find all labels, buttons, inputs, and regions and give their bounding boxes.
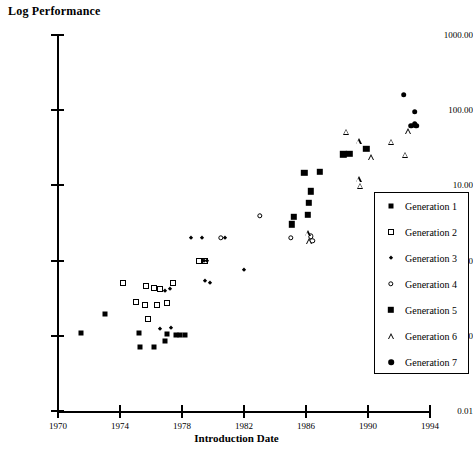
legend-item-5[interactable]: Generation 5 bbox=[375, 297, 470, 323]
data-point bbox=[170, 280, 176, 286]
data-point bbox=[136, 331, 141, 336]
data-point bbox=[357, 183, 363, 189]
data-point bbox=[401, 92, 407, 98]
x-tick bbox=[243, 405, 245, 418]
x-tick-label: 1990 bbox=[359, 421, 377, 431]
legend-item-2[interactable]: Generation 2 bbox=[375, 219, 470, 245]
legend-label: Generation 1 bbox=[405, 201, 457, 212]
data-point bbox=[340, 151, 346, 157]
legend-marker-filled-diamond-small bbox=[389, 256, 394, 261]
y-tick-label: 100.00 bbox=[425, 105, 473, 115]
data-point bbox=[308, 234, 313, 239]
data-point bbox=[169, 325, 174, 330]
data-point bbox=[203, 278, 208, 283]
y-tick bbox=[51, 335, 64, 337]
y-tick-label: 1000.00 bbox=[425, 30, 473, 40]
data-point bbox=[412, 109, 418, 115]
data-point bbox=[162, 338, 167, 343]
data-point bbox=[154, 302, 160, 308]
y-tick-label: 0.01 bbox=[425, 406, 473, 416]
y-tick bbox=[51, 184, 64, 186]
data-point bbox=[152, 344, 157, 349]
x-axis-title: Introduction Date bbox=[0, 432, 473, 444]
legend-item-7[interactable]: Generation 7 bbox=[375, 349, 470, 375]
data-point bbox=[402, 152, 408, 158]
data-point bbox=[368, 154, 374, 160]
legend-marker-filled-square-small bbox=[389, 204, 394, 209]
y-tick bbox=[51, 109, 64, 111]
data-point bbox=[290, 213, 296, 219]
legend-marker-open-circle bbox=[388, 281, 393, 286]
x-tick-label: 1974 bbox=[111, 421, 129, 431]
data-point bbox=[173, 332, 178, 337]
legend-item-1[interactable]: Generation 1 bbox=[375, 193, 470, 219]
legend-item-4[interactable]: Generation 4 bbox=[375, 271, 470, 297]
data-point bbox=[218, 235, 223, 240]
legend-label: Generation 7 bbox=[405, 357, 457, 368]
x-tick-label: 1986 bbox=[297, 421, 315, 431]
legend-marker-open-triangle bbox=[388, 333, 394, 339]
y-axis-line bbox=[57, 35, 59, 413]
chart-legend: Generation 1Generation 2Generation 3Gene… bbox=[374, 192, 469, 374]
data-point bbox=[306, 200, 312, 206]
y-tick bbox=[51, 34, 64, 36]
data-point bbox=[356, 138, 362, 144]
legend-marker-filled-square-large bbox=[388, 307, 394, 313]
data-point bbox=[142, 302, 148, 308]
legend-label: Generation 2 bbox=[405, 227, 457, 238]
x-tick bbox=[119, 405, 121, 418]
data-point bbox=[202, 258, 208, 264]
data-point bbox=[102, 311, 107, 316]
data-point bbox=[363, 146, 369, 152]
data-point bbox=[242, 267, 247, 272]
data-point bbox=[207, 281, 212, 286]
data-point bbox=[204, 259, 209, 264]
data-point bbox=[196, 258, 202, 264]
data-point bbox=[223, 236, 228, 241]
legend-label: Generation 3 bbox=[405, 253, 457, 264]
data-point bbox=[164, 300, 170, 306]
data-point bbox=[183, 332, 188, 337]
x-tick bbox=[429, 405, 431, 418]
x-tick bbox=[57, 405, 59, 418]
legend-marker-open-square bbox=[388, 229, 394, 235]
x-tick bbox=[367, 405, 369, 418]
data-point bbox=[158, 327, 163, 332]
data-point bbox=[388, 139, 394, 145]
data-point bbox=[164, 332, 169, 337]
page-title: Log Performance bbox=[8, 4, 101, 19]
data-point bbox=[151, 285, 157, 291]
legend-label: Generation 5 bbox=[405, 305, 457, 316]
y-tick-label: 10.00 bbox=[425, 180, 473, 190]
data-point bbox=[257, 213, 262, 218]
legend-label: Generation 4 bbox=[405, 279, 457, 290]
data-point bbox=[79, 331, 84, 336]
data-point bbox=[178, 332, 183, 337]
data-point bbox=[167, 286, 172, 291]
x-tick-label: 1970 bbox=[49, 421, 67, 431]
data-point bbox=[413, 123, 419, 129]
data-point bbox=[200, 236, 205, 241]
data-point bbox=[163, 288, 168, 293]
x-tick bbox=[305, 405, 307, 418]
data-point bbox=[409, 123, 415, 129]
data-point bbox=[412, 121, 418, 127]
scatter-chart: Log Performance 0.010.101.0010.00100.001… bbox=[0, 0, 473, 465]
data-point bbox=[305, 230, 311, 236]
data-point bbox=[356, 176, 362, 182]
data-point bbox=[189, 236, 194, 241]
x-tick-label: 1982 bbox=[235, 421, 253, 431]
data-point bbox=[143, 283, 149, 289]
x-tick-label: 1978 bbox=[173, 421, 191, 431]
y-tick bbox=[51, 260, 64, 262]
data-point bbox=[309, 238, 314, 243]
legend-item-3[interactable]: Generation 3 bbox=[375, 245, 470, 271]
legend-item-6[interactable]: Generation 6 bbox=[375, 323, 470, 349]
data-point bbox=[157, 286, 163, 292]
data-point bbox=[343, 129, 349, 135]
data-point bbox=[201, 259, 206, 264]
data-point bbox=[304, 212, 310, 218]
data-point bbox=[120, 280, 126, 286]
data-point bbox=[306, 238, 312, 244]
x-tick bbox=[181, 405, 183, 418]
